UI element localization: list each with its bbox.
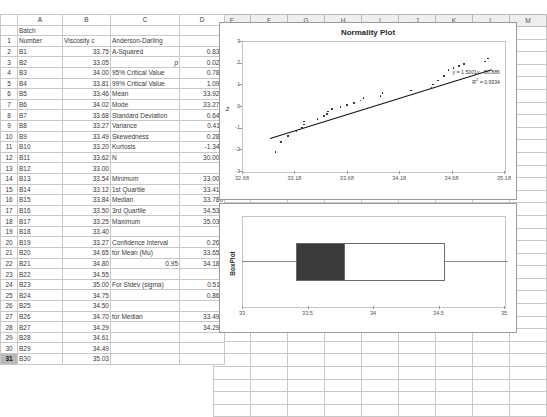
row-header[interactable]: 27 bbox=[1, 311, 18, 322]
cell-statistic-label[interactable] bbox=[111, 332, 180, 343]
cell-batch-number[interactable]: B17 bbox=[18, 216, 63, 227]
cell-statistic-label[interactable]: Mode bbox=[111, 99, 180, 110]
cell-statistic-value[interactable] bbox=[180, 269, 225, 280]
cell-empty[interactable] bbox=[251, 367, 288, 380]
cell-empty[interactable] bbox=[288, 367, 325, 380]
row-header[interactable]: 30 bbox=[1, 343, 18, 354]
cell-batch-number[interactable]: B22 bbox=[18, 269, 63, 280]
cell-statistic-value[interactable]: 33.415 bbox=[180, 184, 225, 195]
cell-empty[interactable] bbox=[436, 367, 473, 380]
row-header[interactable]: 22 bbox=[1, 258, 18, 269]
column-header-d[interactable]: D bbox=[180, 15, 225, 26]
cell-statistic-value[interactable]: 33.659 bbox=[180, 248, 225, 259]
row-header[interactable]: 23 bbox=[1, 269, 18, 280]
worksheet-data-region[interactable]: ABCDBatch1NumberViscosity cAnderson-Darl… bbox=[0, 14, 213, 365]
cell-empty[interactable] bbox=[473, 379, 510, 392]
cell-batch-number[interactable]: B29 bbox=[18, 343, 63, 354]
cell-empty[interactable] bbox=[510, 341, 547, 354]
cell-empty[interactable] bbox=[325, 367, 362, 380]
cell-statistic-label[interactable]: Standard Deviation bbox=[111, 110, 180, 121]
cell-statistic-value[interactable]: 34.184 bbox=[180, 258, 225, 269]
cell-statistic-value[interactable]: 33.000 bbox=[180, 173, 225, 184]
cell-b1[interactable]: Viscosity c bbox=[63, 36, 111, 47]
cell-statistic-value[interactable]: 0.862 bbox=[180, 290, 225, 301]
cell-statistic-label[interactable]: for Mean (Mu) bbox=[111, 248, 180, 259]
cell-batch-number[interactable]: B6 bbox=[18, 99, 63, 110]
row-header[interactable]: 14 bbox=[1, 173, 18, 184]
row-header[interactable]: 18 bbox=[1, 216, 18, 227]
row-header[interactable]: 24 bbox=[1, 279, 18, 290]
cell-viscosity[interactable]: 33.00 bbox=[63, 163, 111, 174]
cell-viscosity[interactable]: 33.54 bbox=[63, 173, 111, 184]
cell-statistic-value[interactable]: 0.787 bbox=[180, 67, 225, 78]
row-header[interactable]: 19 bbox=[1, 226, 18, 237]
cell-empty[interactable] bbox=[436, 379, 473, 392]
cell-empty[interactable] bbox=[362, 341, 399, 354]
cell-viscosity[interactable]: 34.70 bbox=[63, 311, 111, 322]
cell-empty[interactable] bbox=[288, 404, 325, 417]
cell-statistic-value[interactable]: 33.270 bbox=[180, 99, 225, 110]
cell-statistic-value[interactable]: 0.833 bbox=[180, 46, 225, 57]
cell-viscosity[interactable]: 33.68 bbox=[63, 110, 111, 121]
cell-viscosity[interactable]: 34.75 bbox=[63, 290, 111, 301]
cell-statistic-label[interactable]: A-Squared bbox=[111, 46, 180, 57]
corner-cell[interactable] bbox=[1, 15, 18, 26]
cell-statistic-value[interactable] bbox=[180, 332, 225, 343]
cell-statistic-value[interactable] bbox=[180, 301, 225, 312]
cell-statistic-value[interactable]: 35.030 bbox=[180, 216, 225, 227]
cell-viscosity[interactable]: 34.00 bbox=[63, 67, 111, 78]
cell-batch-number[interactable]: B24 bbox=[18, 290, 63, 301]
cell-viscosity[interactable]: 33.84 bbox=[63, 195, 111, 206]
cell-viscosity[interactable]: 33.12 bbox=[63, 184, 111, 195]
cell-d1[interactable] bbox=[180, 36, 225, 47]
cell-empty[interactable] bbox=[362, 392, 399, 405]
cell-statistic-value[interactable]: 34.290 bbox=[180, 322, 225, 333]
cell-statistic-value[interactable]: 33.780 bbox=[180, 195, 225, 206]
cell-statistic-label[interactable] bbox=[111, 290, 180, 301]
cell-a1[interactable]: Number bbox=[18, 36, 63, 47]
cell-empty[interactable] bbox=[399, 354, 436, 367]
cell-batch-number[interactable]: B2 bbox=[18, 57, 63, 68]
cell-statistic-value[interactable]: 0.262 bbox=[180, 237, 225, 248]
cell-viscosity[interactable]: 33.50 bbox=[63, 205, 111, 216]
cell-viscosity[interactable]: 33.05 bbox=[63, 57, 111, 68]
row-header[interactable]: 4 bbox=[1, 67, 18, 78]
cell-viscosity[interactable]: 33.75 bbox=[63, 46, 111, 57]
cell-statistic-label[interactable] bbox=[111, 343, 180, 354]
row-header[interactable]: 28 bbox=[1, 322, 18, 333]
cell-empty[interactable] bbox=[473, 341, 510, 354]
cell-viscosity[interactable]: 34.50 bbox=[63, 301, 111, 312]
cell-statistic-label[interactable]: 0.95 bbox=[111, 258, 180, 269]
cell-batch-number[interactable]: B3 bbox=[18, 67, 63, 78]
cell-empty[interactable] bbox=[288, 379, 325, 392]
cell-batch-number[interactable]: B25 bbox=[18, 301, 63, 312]
column-header-a[interactable]: A bbox=[18, 15, 63, 26]
row-header[interactable]: 9 bbox=[1, 120, 18, 131]
cell-empty[interactable] bbox=[436, 404, 473, 417]
cell-batch-number[interactable]: B23 bbox=[18, 279, 63, 290]
cell-empty[interactable] bbox=[325, 379, 362, 392]
cell-viscosity[interactable]: 34.65 bbox=[63, 248, 111, 259]
row-header[interactable] bbox=[1, 25, 18, 36]
cell-batch-number[interactable]: B21 bbox=[18, 258, 63, 269]
cell-statistic-value[interactable]: 0.511 bbox=[180, 279, 225, 290]
row-header[interactable]: 17 bbox=[1, 205, 18, 216]
cell-statistic-value[interactable]: -1.342 bbox=[180, 142, 225, 153]
cell-empty[interactable] bbox=[399, 392, 436, 405]
row-header[interactable]: 3 bbox=[1, 57, 18, 68]
cell-batch-number[interactable]: B14 bbox=[18, 184, 63, 195]
cell-empty[interactable] bbox=[473, 404, 510, 417]
row-header[interactable]: 10 bbox=[1, 131, 18, 142]
cell-batch-number[interactable]: B9 bbox=[18, 131, 63, 142]
cell-batch-number[interactable]: B13 bbox=[18, 173, 63, 184]
cell-empty[interactable] bbox=[473, 367, 510, 380]
row-header[interactable]: 11 bbox=[1, 142, 18, 153]
row-header[interactable]: 16 bbox=[1, 195, 18, 206]
cell-statistic-label[interactable]: For Stdev (sigma) bbox=[111, 279, 180, 290]
cell-statistic-label[interactable]: 1st Quartile bbox=[111, 184, 180, 195]
cell-batch-number[interactable]: B8 bbox=[18, 120, 63, 131]
cell-statistic-value[interactable]: 0.286 bbox=[180, 131, 225, 142]
cell-c-blank[interactable] bbox=[111, 25, 180, 36]
cell-empty[interactable] bbox=[399, 341, 436, 354]
cell-statistic-label[interactable] bbox=[111, 322, 180, 333]
